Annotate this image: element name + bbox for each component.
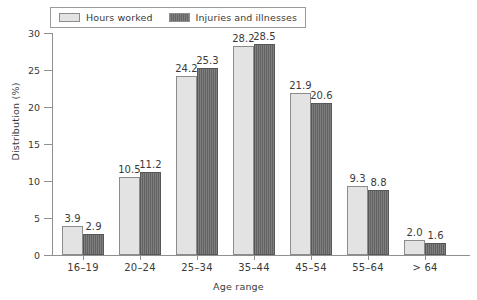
bar-value-label: 2.9	[72, 221, 116, 232]
y-axis-tick	[44, 255, 52, 256]
bar-hours-worked	[347, 186, 368, 255]
bar-value-label: 11.2	[129, 159, 173, 170]
bar-value-label: 28.5	[243, 31, 287, 42]
bar-value-label: 20.6	[300, 90, 344, 101]
bar-value-label: 25.3	[186, 55, 230, 66]
x-axis-title: Age range	[0, 281, 477, 292]
x-axis-tick	[140, 256, 141, 260]
y-axis-tick	[44, 107, 52, 108]
bar-injuries-and-illnesses	[83, 234, 104, 255]
y-axis-tick	[44, 33, 52, 34]
legend-entry-hours-worked: Hours worked	[59, 12, 153, 23]
y-axis-tick	[44, 70, 52, 71]
bar-hours-worked	[404, 240, 425, 255]
x-axis-line	[52, 255, 470, 256]
bar-injuries-and-illnesses	[368, 190, 389, 255]
bar-injuries-and-illnesses	[197, 68, 218, 255]
bar-hours-worked	[119, 177, 140, 255]
y-axis-title: Distribution (%)	[10, 57, 21, 187]
bar-hours-worked	[233, 46, 254, 255]
bar-hours-worked	[290, 93, 311, 255]
legend-swatch-injuries-and-illnesses	[169, 13, 190, 22]
legend-label-injuries-and-illnesses: Injuries and illnesses	[196, 12, 297, 23]
x-axis-tick	[425, 256, 426, 260]
x-axis-tick	[197, 256, 198, 260]
x-axis-tick-label: > 64	[390, 262, 460, 273]
bar-chart: Hours worked Injuries and illnesses 0510…	[0, 0, 477, 300]
chart-legend: Hours worked Injuries and illnesses	[50, 7, 306, 28]
bar-injuries-and-illnesses	[425, 243, 446, 255]
bar-value-label: 8.8	[357, 177, 401, 188]
x-axis-tick	[254, 256, 255, 260]
legend-swatch-hours-worked	[59, 13, 80, 22]
bar-value-label: 1.6	[414, 230, 458, 241]
legend-label-hours-worked: Hours worked	[86, 12, 153, 23]
bar-hours-worked	[176, 76, 197, 255]
y-axis-tick	[44, 144, 52, 145]
x-axis-tick	[368, 256, 369, 260]
x-axis-tick	[83, 256, 84, 260]
y-axis-tick	[44, 181, 52, 182]
bar-injuries-and-illnesses	[140, 172, 161, 255]
y-axis-tick-label: 0	[0, 250, 40, 261]
bar-injuries-and-illnesses	[311, 103, 332, 255]
y-axis-tick-label: 30	[0, 28, 40, 39]
y-axis-tick-label: 5	[0, 213, 40, 224]
x-axis-tick	[311, 256, 312, 260]
legend-entry-injuries-and-illnesses: Injuries and illnesses	[169, 12, 297, 23]
bar-injuries-and-illnesses	[254, 44, 275, 255]
plot-area: 3.92.910.511.224.225.328.228.521.920.69.…	[52, 33, 470, 255]
